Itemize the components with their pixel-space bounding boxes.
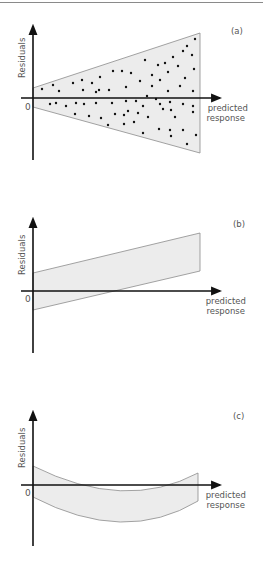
data-point bbox=[127, 110, 129, 112]
data-point bbox=[159, 103, 161, 105]
data-point bbox=[177, 65, 179, 67]
residual-plots-figure: Residuals 0 predicted response (a) Resid… bbox=[0, 0, 263, 566]
panel-a: Residuals 0 predicted response (a) bbox=[17, 26, 248, 160]
x-axis-label-line1: predicted bbox=[208, 103, 248, 113]
data-point bbox=[130, 72, 132, 74]
data-point bbox=[159, 79, 161, 81]
funnel-band bbox=[33, 33, 200, 153]
data-point bbox=[95, 91, 97, 93]
data-point bbox=[174, 116, 176, 118]
data-point bbox=[123, 114, 125, 116]
origin-label: 0 bbox=[25, 102, 31, 112]
data-point bbox=[182, 50, 184, 52]
data-point bbox=[182, 129, 184, 131]
data-point bbox=[111, 102, 113, 104]
origin-label: 0 bbox=[25, 294, 31, 304]
data-point bbox=[142, 105, 144, 107]
panel-label: (a) bbox=[231, 26, 243, 36]
data-point bbox=[192, 90, 194, 92]
data-point bbox=[151, 85, 153, 87]
data-point bbox=[195, 134, 197, 136]
data-point bbox=[151, 74, 153, 76]
data-point bbox=[123, 123, 125, 125]
data-point bbox=[172, 56, 174, 58]
data-point bbox=[52, 84, 54, 86]
data-point bbox=[162, 108, 164, 110]
data-point bbox=[55, 102, 57, 104]
data-point bbox=[91, 82, 93, 84]
linear-band bbox=[33, 233, 200, 310]
data-point bbox=[81, 79, 83, 81]
data-point bbox=[184, 77, 186, 79]
data-point bbox=[95, 102, 97, 104]
panel-b: Residuals 0 predicted response (b) bbox=[17, 219, 246, 353]
panel-label: (c) bbox=[233, 411, 244, 421]
y-axis-label: Residuals bbox=[17, 234, 27, 275]
data-point bbox=[193, 68, 195, 70]
data-point bbox=[192, 105, 194, 107]
x-axis-label-line2: response bbox=[206, 306, 245, 316]
data-point bbox=[191, 54, 193, 56]
data-point bbox=[65, 105, 67, 107]
data-point bbox=[158, 128, 160, 130]
data-point bbox=[98, 89, 100, 91]
data-point bbox=[83, 103, 85, 105]
data-point bbox=[88, 115, 90, 117]
data-point bbox=[186, 143, 188, 145]
data-point bbox=[107, 124, 109, 126]
data-point bbox=[72, 82, 74, 84]
data-point bbox=[82, 89, 84, 91]
data-point bbox=[133, 121, 135, 123]
data-point bbox=[169, 129, 171, 131]
curved-band bbox=[33, 466, 198, 522]
data-point bbox=[121, 70, 123, 72]
data-point bbox=[135, 100, 137, 102]
data-point bbox=[157, 64, 159, 66]
origin-label: 0 bbox=[25, 488, 31, 498]
data-point bbox=[99, 76, 101, 78]
data-point bbox=[186, 45, 188, 47]
data-point bbox=[164, 62, 166, 64]
data-point bbox=[114, 113, 116, 115]
x-axis-label-line2: response bbox=[206, 500, 245, 510]
data-point bbox=[139, 80, 141, 82]
data-point bbox=[58, 90, 60, 92]
data-point bbox=[167, 90, 169, 92]
data-point bbox=[100, 117, 102, 119]
data-point bbox=[142, 132, 144, 134]
data-point bbox=[125, 100, 127, 102]
data-point bbox=[170, 109, 172, 111]
data-point bbox=[41, 88, 43, 90]
data-point bbox=[144, 59, 146, 61]
data-point bbox=[147, 116, 149, 118]
data-point bbox=[146, 95, 148, 97]
data-point bbox=[192, 111, 194, 113]
data-point bbox=[169, 101, 171, 103]
data-point bbox=[194, 38, 196, 40]
x-axis-label-line1: predicted bbox=[206, 490, 246, 500]
y-axis-label: Residuals bbox=[17, 37, 27, 78]
panel-label: (b) bbox=[233, 219, 245, 229]
data-point bbox=[179, 85, 181, 87]
data-point bbox=[74, 113, 76, 115]
data-point bbox=[49, 103, 51, 105]
data-point bbox=[182, 103, 184, 105]
data-point bbox=[75, 102, 77, 104]
data-point bbox=[112, 70, 114, 72]
data-point bbox=[167, 71, 169, 73]
x-axis-label-line2: response bbox=[206, 113, 245, 123]
y-axis-label: Residuals bbox=[17, 427, 27, 468]
x-axis-label-line1: predicted bbox=[206, 296, 246, 306]
data-point bbox=[125, 86, 127, 88]
panel-c: Residuals 0 predicted response (c) bbox=[17, 411, 246, 546]
data-point bbox=[137, 112, 139, 114]
data-point bbox=[108, 89, 110, 91]
data-point bbox=[170, 135, 172, 137]
